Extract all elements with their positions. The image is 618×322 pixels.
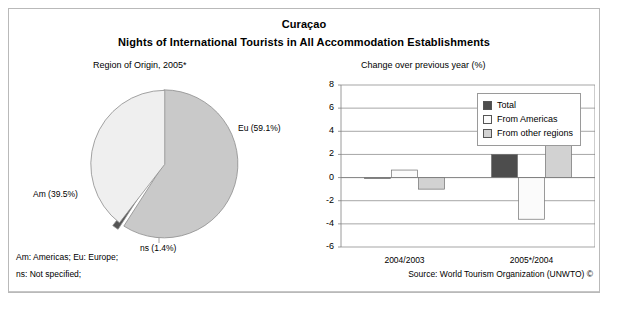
y-axis-tick-label: -4	[312, 218, 334, 228]
figure-frame: Curaçao Nights of International Tourists…	[8, 8, 600, 293]
legend-label-from-americas: From Americas	[497, 114, 558, 124]
pie-chart: Eu (59.1%) Am (39.5%) ns (1.4%)	[19, 75, 304, 260]
legend-label-from-other-regions: From other regions	[497, 128, 573, 138]
legend-swatch-from-other-regions	[483, 129, 492, 138]
page-subtitle: Nights of International Tourists in All …	[9, 36, 599, 48]
pie-label-americas: Am (39.5%)	[33, 189, 78, 199]
bar-from-other-regions-1	[419, 178, 445, 190]
pie-chart-svg	[19, 75, 304, 260]
figure-footer: Am: Americas; Eu: Europe; ns: Not specif…	[9, 248, 599, 292]
bar-from-americas-2	[519, 178, 545, 220]
y-axis-tick-label: 4	[312, 125, 334, 135]
pie-slices	[91, 90, 238, 243]
page-title: Curaçao	[9, 18, 599, 30]
y-axis-tick-label: 8	[312, 79, 334, 89]
y-axis-tick-label: 0	[312, 172, 334, 182]
legend-item-from-other-regions: From other regions	[483, 126, 573, 140]
footnote-abbreviations-line2: ns: Not specified;	[16, 269, 81, 279]
legend-label-total: Total	[497, 100, 516, 110]
legend-swatch-total	[483, 101, 492, 110]
pie-label-europe: Eu (59.1%)	[238, 123, 281, 133]
legend-item-total: Total	[483, 98, 573, 112]
pie-chart-caption: Region of Origin, 2005*	[93, 60, 187, 70]
bar-total-2	[492, 154, 518, 177]
bar-chart: 86420-2-4-6 2004/20032005*/2004 Total Fr…	[309, 75, 595, 275]
legend-item-from-americas: From Americas	[483, 112, 573, 126]
bar-chart-caption: Change over previous year (%)	[361, 60, 486, 70]
y-axis-tick-label: -2	[312, 195, 334, 205]
bar-chart-legend: Total From Americas From other regions	[477, 93, 581, 146]
y-axis-tick-label: 2	[312, 148, 334, 158]
legend-swatch-from-americas	[483, 115, 492, 124]
footnote-source: Source: World Tourism Organization (UNWT…	[408, 269, 593, 279]
y-axis-tick-label: 6	[312, 102, 334, 112]
bar-from-americas-1	[392, 170, 418, 178]
footer-divider	[9, 291, 599, 292]
footnote-abbreviations-line1: Am: Americas; Eu: Europe;	[16, 252, 118, 262]
